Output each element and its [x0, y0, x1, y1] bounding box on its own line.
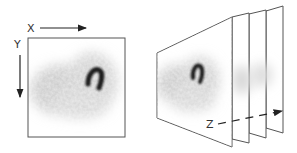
front-frame	[156, 17, 232, 147]
axis-z-label: Z	[206, 118, 214, 131]
left-panel: X Y	[13, 22, 125, 137]
back-frame-1	[232, 13, 252, 143]
projection-image	[28, 38, 125, 137]
diagram-canvas: X Y	[0, 0, 297, 153]
axis-x-label: X	[27, 22, 35, 35]
axis-y-label: Y	[13, 38, 21, 51]
right-panel: Z	[156, 6, 283, 147]
